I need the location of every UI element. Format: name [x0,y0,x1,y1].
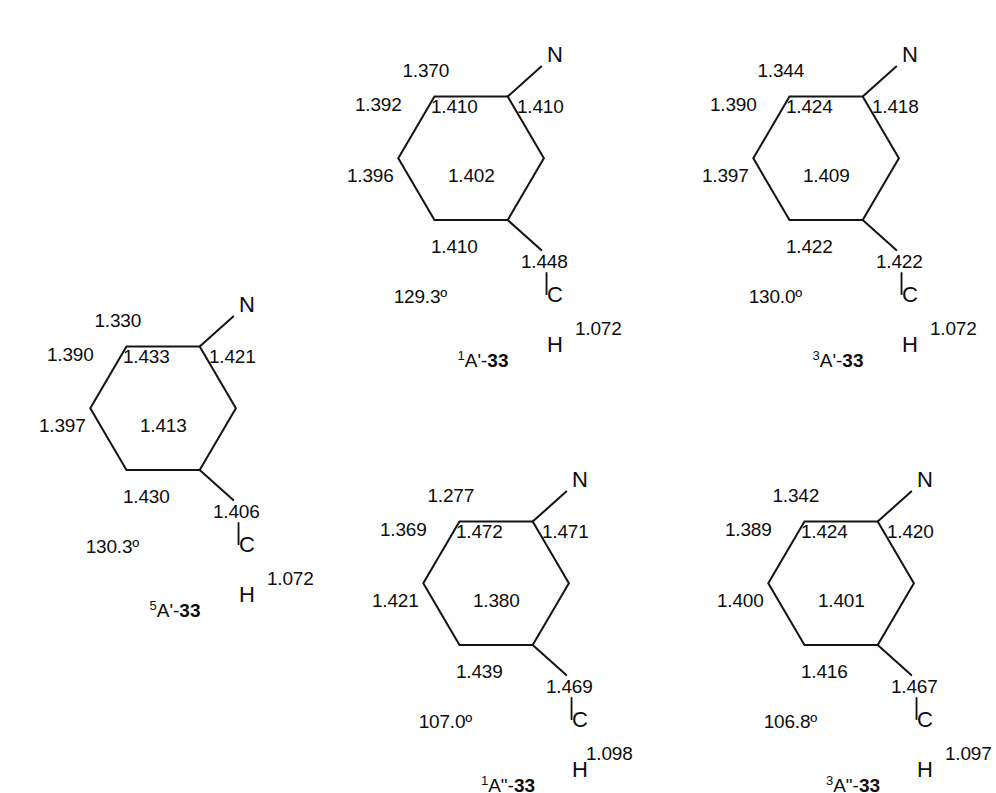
label-bond-ring-center: 1.401 [818,591,865,610]
bond-ring-carbon [508,220,542,250]
label-multiplicity: 3 [812,348,819,363]
atom-nitrogen: N [572,469,588,491]
bond-ring-nitrogen [508,67,542,97]
label-compound-number: 33 [487,350,508,371]
label-bond-c-exocyclic: 1.406 [213,502,260,521]
label-bond-ring-right: 1.471 [542,522,589,541]
label-angle: 130.3º [86,537,139,556]
bond-ring-carbon [533,645,567,675]
label-compound-number: 33 [842,350,863,371]
molecule-1A-dprime-33: NCH1.2771.3691.4721.4711.4211.3801.4391.… [358,458,658,793]
label-angle: 129.3º [394,287,447,306]
label-multiplicity: 5 [149,598,156,613]
label-compound-number: 33 [514,775,535,793]
label-bond-ring-top-left: 1.390 [47,345,94,364]
molecule-label-1A-dprime-33: 1A"-33 [358,776,658,793]
label-term-symbol: A" [833,775,852,793]
label-bond-ring-top: 1.433 [123,347,170,366]
atom-carbon: C [572,709,588,731]
label-bond-ring-right: 1.418 [872,97,919,116]
bond-ring-carbon [200,470,234,500]
label-term-symbol: A' [465,350,481,371]
label-bond-ring-right: 1.420 [887,522,934,541]
label-bond-ring-right: 1.410 [517,97,564,116]
atom-nitrogen: N [917,469,933,491]
label-bond-c-n: 1.277 [427,486,474,505]
label-bond-c-n: 1.344 [757,61,804,80]
molecule-5A-prime-33: NCH1.3301.3901.4331.4211.3971.4131.4301.… [25,283,325,623]
bond-ring-nitrogen [533,492,567,522]
label-bond-c-h: 1.097 [945,744,992,763]
label-bond-ring-top-left: 1.369 [380,520,427,539]
atom-carbon: C [917,709,933,731]
label-bond-ring-top: 1.472 [456,522,503,541]
label-bond-ring-bottom: 1.422 [786,237,833,256]
label-bond-ring-bottom: 1.416 [801,662,848,681]
label-bond-c-n: 1.330 [94,311,141,330]
atom-nitrogen: N [902,44,918,66]
label-term-symbol: A' [820,350,836,371]
label-bond-ring-bottom: 1.410 [431,237,478,256]
label-bond-ring-center: 1.413 [140,416,187,435]
label-bond-c-h: 1.098 [586,744,633,763]
label-bond-ring-left: 1.400 [717,591,764,610]
label-bond-ring-bottom: 1.430 [123,487,170,506]
label-term-symbol: A" [488,775,507,793]
label-bond-c-h: 1.072 [575,319,622,338]
label-bond-c-exocyclic: 1.467 [891,677,938,696]
atom-carbon: C [902,284,918,306]
label-term-symbol: A' [157,600,173,621]
label-bond-ring-top: 1.424 [786,97,833,116]
label-bond-c-exocyclic: 1.469 [546,677,593,696]
label-bond-ring-bottom: 1.439 [456,662,503,681]
label-bond-c-h: 1.072 [930,319,977,338]
label-bond-ring-left: 1.421 [372,591,419,610]
bond-ring-carbon [863,220,897,250]
molecule-1A-prime-33: NCH1.3701.3921.4101.4101.3961.4021.4101.… [333,33,633,373]
molecule-label-3A-prime-33: 3A'-33 [688,351,988,370]
label-bond-ring-top: 1.424 [801,522,848,541]
bond-ring-nitrogen [863,67,897,97]
label-bond-ring-top: 1.410 [431,97,478,116]
molecule-label-3A-dprime-33: 3A"-33 [703,776,996,793]
label-bond-ring-center: 1.380 [473,591,520,610]
label-compound-number: 33 [179,600,200,621]
label-bond-ring-left: 1.396 [347,166,394,185]
label-angle: 106.8º [764,712,817,731]
molecule-3A-dprime-33: NCH1.3421.3891.4241.4201.4001.4011.4161.… [703,458,996,793]
molecule-label-1A-prime-33: 1A'-33 [333,351,633,370]
label-bond-ring-top-left: 1.392 [355,95,402,114]
label-bond-ring-center: 1.402 [448,166,495,185]
label-bond-c-n: 1.370 [402,61,449,80]
bond-ring-nitrogen [878,492,912,522]
label-bond-ring-top-left: 1.389 [725,520,772,539]
label-bond-c-n: 1.342 [772,486,819,505]
label-compound-number: 33 [859,775,880,793]
atom-nitrogen: N [239,294,255,316]
label-bond-ring-left: 1.397 [39,416,86,435]
label-bond-c-h: 1.072 [267,569,314,588]
label-bond-ring-center: 1.409 [803,166,850,185]
label-bond-c-exocyclic: 1.448 [521,252,568,271]
atom-nitrogen: N [547,44,563,66]
label-multiplicity: 1 [457,348,464,363]
label-bond-c-exocyclic: 1.422 [876,252,923,271]
bond-ring-carbon [878,645,912,675]
label-angle: 107.0º [419,712,472,731]
label-bond-ring-left: 1.397 [702,166,749,185]
label-bond-ring-right: 1.421 [209,347,256,366]
molecule-label-5A-prime-33: 5A'-33 [25,601,325,620]
bond-ring-nitrogen [200,317,234,347]
label-bond-ring-top-left: 1.390 [710,95,757,114]
molecule-3A-prime-33: NCH1.3441.3901.4241.4181.3971.4091.4221.… [688,33,988,373]
atom-carbon: C [239,534,255,556]
atom-carbon: C [547,284,563,306]
label-angle: 130.0º [749,287,802,306]
